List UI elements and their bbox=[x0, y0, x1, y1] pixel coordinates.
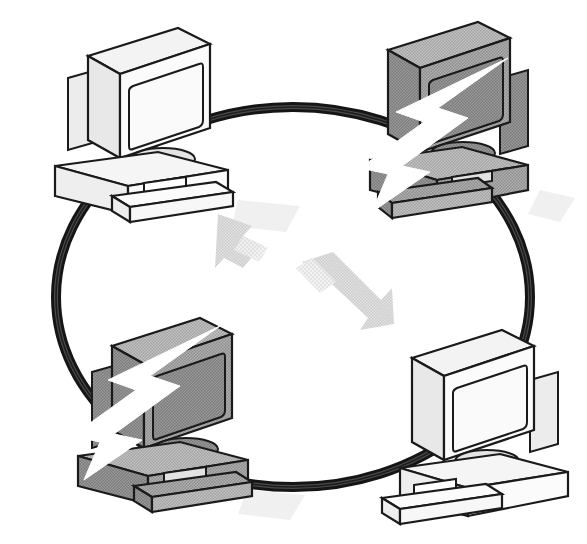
ring-network-illustration: Workstation (operational) Workstation (f… bbox=[0, 0, 587, 544]
node-top-left-monitor-side bbox=[88, 56, 120, 158]
node-bottom-right-monitor-side bbox=[412, 358, 444, 460]
diagram-canvas: Workstation (operational) Workstation (f… bbox=[0, 0, 587, 544]
